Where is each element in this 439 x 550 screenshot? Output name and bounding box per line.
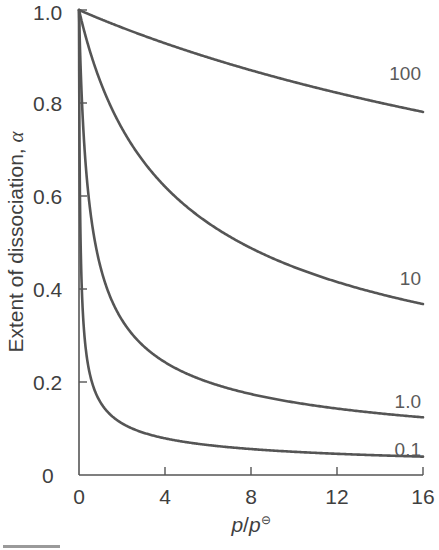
curve-label-0.1: 0.1: [395, 439, 421, 460]
curve-K-0.1: [79, 10, 423, 457]
y-tick-1.0: 1.0: [33, 1, 62, 24]
y-tick-labels: 0 0.2 0.4 0.6 0.8 1.0: [33, 1, 63, 487]
curve-label-1.0: 1.0: [395, 391, 421, 412]
curve-K-10: [79, 10, 423, 304]
curves: [79, 10, 423, 457]
x-ticks: [165, 467, 423, 475]
curve-K-100: [79, 10, 423, 112]
x-tick-0: 0: [73, 485, 85, 508]
curve-labels: 100 10 1.0 0.1: [389, 63, 421, 460]
footer-bar: [3, 545, 60, 548]
x-tick-12: 12: [325, 485, 348, 508]
x-tick-4: 4: [159, 485, 171, 508]
y-tick-0.8: 0.8: [33, 92, 62, 115]
y-tick-0.4: 0.4: [33, 278, 63, 301]
y-tick-0: 0: [42, 464, 54, 487]
x-axis-title: p/p⊖: [230, 513, 270, 536]
x-tick-8: 8: [245, 485, 257, 508]
curve-label-100: 100: [389, 63, 421, 84]
x-tick-labels: 0 4 8 12 16: [73, 485, 435, 508]
x-tick-16: 16: [411, 485, 434, 508]
y-tick-0.6: 0.6: [33, 185, 62, 208]
dissociation-chart: 0 0.2 0.4 0.6 0.8 1.0 0 4 8 12 16 Extent…: [0, 0, 439, 550]
y-tick-0.2: 0.2: [33, 371, 62, 394]
curve-label-10: 10: [400, 268, 421, 289]
axes: [79, 10, 423, 475]
y-axis-title: Extent of dissociation, α: [4, 130, 28, 352]
